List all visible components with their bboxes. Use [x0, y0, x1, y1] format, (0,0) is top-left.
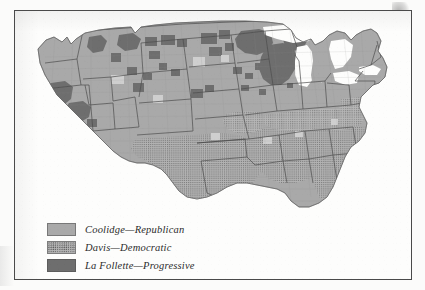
- legend-label-coolidge: Coolidge—Republican: [85, 224, 184, 235]
- legend-label-davis: Davis—Democratic: [85, 242, 172, 253]
- coolidge-swatch: [47, 223, 76, 236]
- map-legend: Coolidge—Republican Davis—Democratic La …: [47, 221, 229, 275]
- legend-item-davis: Davis—Democratic: [47, 239, 229, 255]
- legend-label-lafollette: La Follette—Progressive: [85, 260, 195, 271]
- map-plate-frame: Coolidge—Republican Davis—Democratic La …: [14, 10, 412, 280]
- scan-artifact-left-edge: [0, 246, 14, 286]
- davis-swatch: [47, 241, 76, 254]
- lafollette-swatch: [47, 259, 76, 272]
- scanned-map-page: Coolidge—Republican Davis—Democratic La …: [0, 0, 425, 290]
- legend-item-coolidge: Coolidge—Republican: [47, 221, 229, 237]
- legend-item-lafollette: La Follette—Progressive: [47, 257, 229, 273]
